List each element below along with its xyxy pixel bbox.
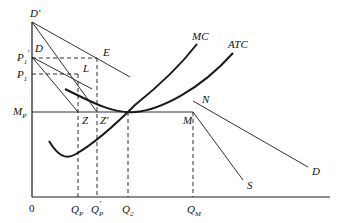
demand-line-d-inner <box>32 57 78 112</box>
label-m: M <box>182 114 193 126</box>
label-qp-prime: QP' <box>91 200 104 218</box>
label-z: Z <box>82 114 89 126</box>
label-p1: P1 <box>16 68 27 83</box>
label-d-upper: D <box>34 42 43 54</box>
label-l: L <box>82 62 89 74</box>
label-mp: MP <box>12 105 27 120</box>
label-mc: MC <box>191 30 209 42</box>
demand-line-d-prime-outer <box>32 22 130 77</box>
economics-diagram: D' D P1' P1 MP E L Z Z' MC ATC N M S D 0… <box>0 0 341 223</box>
demand-line-nd <box>193 101 308 167</box>
label-n: N <box>201 93 210 105</box>
mc-curve <box>49 44 197 157</box>
label-atc: ATC <box>227 38 248 50</box>
supply-line-s <box>193 112 243 180</box>
label-s: S <box>247 179 253 191</box>
label-q2: Q2 <box>122 203 134 218</box>
label-z-prime: Z' <box>100 114 109 126</box>
label-e: E <box>102 46 110 58</box>
label-qp: QP <box>71 203 84 218</box>
label-d-lower: D <box>311 165 320 177</box>
label-p1-prime: P1' <box>16 49 29 66</box>
label-d-prime: D' <box>29 7 41 19</box>
label-origin: 0 <box>29 202 35 214</box>
label-qm: QM <box>187 203 202 218</box>
